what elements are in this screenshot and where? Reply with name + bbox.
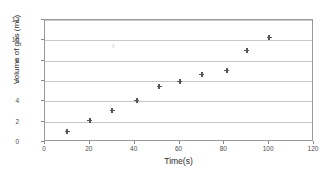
data-point [87, 118, 92, 123]
x-tick-mark [44, 141, 45, 144]
gridline [45, 101, 312, 102]
data-point [65, 129, 70, 134]
x-tick-label: 80 [220, 145, 227, 152]
y-tick-label: 8 [0, 56, 19, 63]
plot-area [44, 19, 313, 141]
x-tick-mark [179, 141, 180, 144]
x-tick-label: 20 [85, 145, 92, 152]
data-point [199, 72, 204, 77]
y-tick-label: 0 [0, 138, 19, 145]
data-point [110, 108, 115, 113]
scatter-chart: Volume of gas (mL) 024681012 02040608010… [0, 0, 335, 174]
x-tick-mark [313, 141, 314, 144]
gridline [45, 40, 312, 41]
data-point [224, 68, 229, 73]
x-tick-mark [134, 141, 135, 144]
gridline [45, 122, 312, 123]
x-tick-label: 60 [175, 145, 182, 152]
data-point [157, 84, 162, 89]
data-point [244, 48, 249, 53]
y-tick-label: 4 [0, 97, 19, 104]
data-point [177, 79, 182, 84]
x-tick-mark [268, 141, 269, 144]
x-tick-label: 100 [263, 145, 274, 152]
x-tick-mark [89, 141, 90, 144]
faint-artifact-mark [112, 44, 115, 48]
gridline [45, 61, 312, 62]
x-axis-title: Time(s) [44, 156, 313, 166]
y-tick-label: 10 [0, 36, 19, 43]
x-tick-label: 0 [42, 145, 46, 152]
x-tick-label: 120 [308, 145, 319, 152]
y-tick-label: 6 [0, 77, 19, 84]
y-tick-label: 12 [0, 16, 19, 23]
x-tick-label: 40 [130, 145, 137, 152]
data-point [267, 35, 272, 40]
x-tick-mark [223, 141, 224, 144]
data-point [134, 98, 139, 103]
y-tick-label: 2 [0, 117, 19, 124]
gridline [45, 20, 312, 21]
